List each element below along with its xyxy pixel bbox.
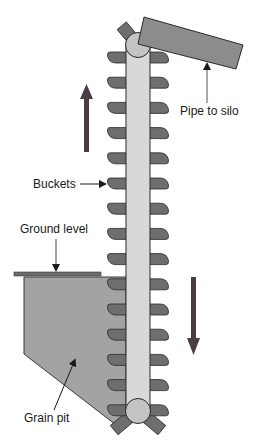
bucket-left	[107, 254, 127, 265]
bucket-left	[107, 203, 127, 214]
pipe-label: Pipe to silo	[180, 104, 239, 118]
bucket-left	[107, 178, 127, 189]
bucket-right	[149, 380, 169, 391]
bucket-right	[149, 329, 169, 340]
bucket-left	[107, 405, 127, 416]
bucket-right	[149, 304, 169, 315]
bucket-left	[107, 304, 127, 315]
down-arrow-icon	[187, 277, 200, 355]
grain-pit-label: Grain pit	[24, 411, 70, 425]
bucket-left	[107, 380, 127, 391]
up-arrow-icon	[80, 84, 93, 152]
bucket-right	[149, 254, 169, 265]
bottom-pulley	[126, 399, 151, 424]
bucket-right	[149, 178, 169, 189]
bucket-elevator-diagram: Pipe to silo Buckets Ground level Grain …	[0, 0, 269, 446]
bucket-right	[149, 128, 169, 139]
bucket-right	[149, 279, 169, 290]
buckets-label: Buckets	[33, 177, 76, 191]
bucket-left	[107, 354, 127, 365]
ground-level-bar	[14, 272, 101, 276]
conveyor-belt	[126, 44, 150, 412]
bucket-left	[107, 52, 127, 63]
bucket-right	[149, 203, 169, 214]
ground-level-label: Ground level	[20, 222, 88, 236]
bucket-left	[107, 102, 127, 113]
bucket-left	[107, 329, 127, 340]
bucket-right	[149, 153, 169, 164]
bucket-left	[107, 228, 127, 239]
bucket-left	[107, 128, 127, 139]
bucket-right	[149, 228, 169, 239]
bucket-left	[107, 279, 127, 290]
bucket-right	[149, 102, 169, 113]
bucket-right	[149, 354, 169, 365]
bucket-left	[107, 153, 127, 164]
bucket-right	[149, 405, 169, 416]
bucket-right	[149, 77, 169, 88]
bucket-left	[107, 77, 127, 88]
bucket-right	[149, 52, 169, 63]
